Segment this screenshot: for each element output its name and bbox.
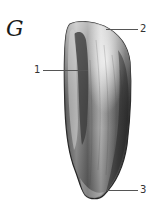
leader-line-3: [106, 190, 138, 191]
label-3: 3: [140, 185, 146, 195]
label-1: 1: [34, 65, 40, 75]
leader-line-2: [106, 29, 138, 30]
leader-line-1: [43, 70, 88, 71]
label-2: 2: [140, 24, 146, 34]
